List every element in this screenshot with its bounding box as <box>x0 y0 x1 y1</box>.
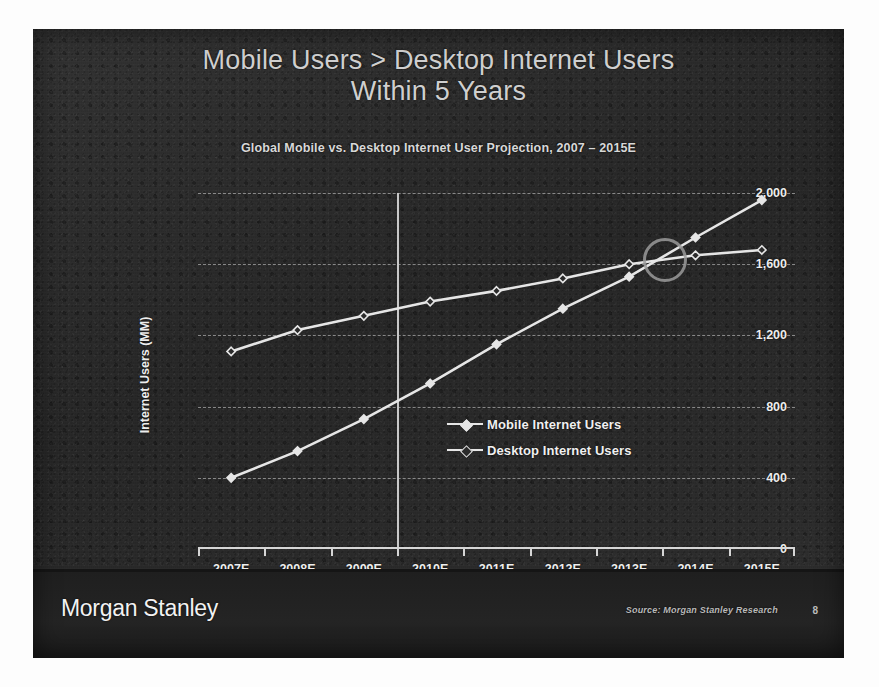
legend-marker-icon <box>447 444 483 456</box>
y-axis-label: Internet Users (MM) <box>138 316 152 433</box>
data-point-marker <box>293 447 301 455</box>
legend-label: Desktop Internet Users <box>487 443 632 458</box>
data-point-marker <box>758 246 766 254</box>
legend-item-2[interactable]: Desktop Internet Users <box>447 437 697 463</box>
source-note: Source: Morgan Stanley Research <box>626 605 778 615</box>
data-point-marker <box>625 260 633 268</box>
data-point-marker <box>227 474 235 482</box>
x-axis-tick-mark <box>463 549 465 556</box>
legend-marker-icon <box>447 418 483 430</box>
chart-subtitle: Global Mobile vs. Desktop Internet User … <box>33 141 844 155</box>
data-point-marker <box>492 287 500 295</box>
data-point-marker <box>360 312 368 320</box>
legend-label: Mobile Internet Users <box>487 417 621 432</box>
data-point-marker <box>691 251 699 259</box>
chart-series-layer <box>198 193 795 549</box>
x-axis-tick-mark <box>662 549 664 556</box>
chart-plot-area: 04008001,2001,6002,000 2007E2008E2009E20… <box>198 193 795 549</box>
scanned-page: Mobile Users > Desktop Internet Users Wi… <box>0 0 879 687</box>
data-point-marker <box>559 274 567 282</box>
x-axis-tick-mark <box>331 549 333 556</box>
page-title: Mobile Users > Desktop Internet Users Wi… <box>33 45 844 107</box>
morgan-stanley-logo: Morgan Stanley <box>61 595 218 622</box>
page-number: 8 <box>812 605 818 616</box>
data-point-marker <box>227 347 235 355</box>
chart-legend: Mobile Internet UsersDesktop Internet Us… <box>447 411 697 463</box>
data-point-marker <box>426 297 434 305</box>
x-axis-tick-mark <box>397 549 399 556</box>
title-line-2: Within 5 Years <box>33 76 844 107</box>
data-point-marker <box>293 326 301 334</box>
x-axis-tick-mark <box>596 549 598 556</box>
x-axis-tick-mark <box>264 549 266 556</box>
x-axis-tick-mark <box>729 549 731 556</box>
legend-item-1[interactable]: Mobile Internet Users <box>447 411 697 437</box>
presentation-slide: Mobile Users > Desktop Internet Users Wi… <box>33 29 844 658</box>
slide-footer: Morgan Stanley Source: Morgan Stanley Re… <box>33 572 844 658</box>
title-line-1: Mobile Users > Desktop Internet Users <box>203 45 675 75</box>
chart-container: Internet Users (MM) 04008001,2001,6002,0… <box>95 167 815 582</box>
x-axis-tick-mark <box>530 549 532 556</box>
x-axis-line <box>198 547 795 549</box>
